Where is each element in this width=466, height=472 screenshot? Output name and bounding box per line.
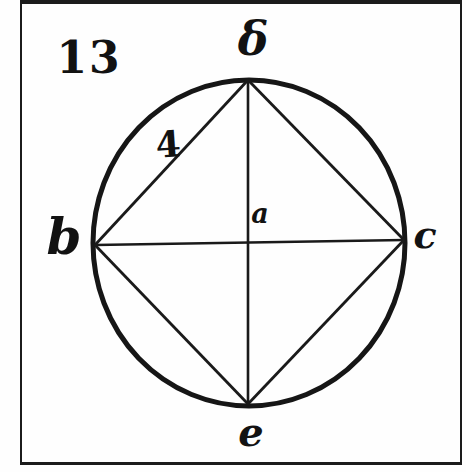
center-label-a: a: [251, 200, 269, 227]
vertex-label-d: δ: [238, 16, 269, 62]
woodcut-figure: 13 4 δ b c e a: [0, 0, 466, 472]
chord-e-c: [248, 240, 404, 404]
vertex-label-c: c: [413, 216, 436, 254]
figure-number: 13: [56, 36, 121, 80]
vertex-label-e: e: [238, 412, 263, 452]
segment-label-4: 4: [154, 125, 182, 163]
chord-b-e: [95, 245, 248, 404]
vertex-label-b: b: [47, 212, 82, 262]
diameter-b-c: [95, 240, 404, 245]
